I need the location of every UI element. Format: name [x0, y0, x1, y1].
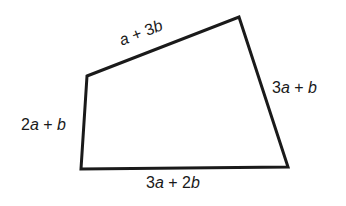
- quadrilateral-outline: [81, 17, 288, 169]
- quadrilateral-diagram: a + 3b 3a + b 2a + b 3a + 2b: [0, 0, 346, 206]
- side-label-left: 2a + b: [21, 117, 66, 133]
- side-label-bottom: 3a + 2b: [146, 175, 200, 191]
- side-label-right: 3a + b: [272, 80, 317, 96]
